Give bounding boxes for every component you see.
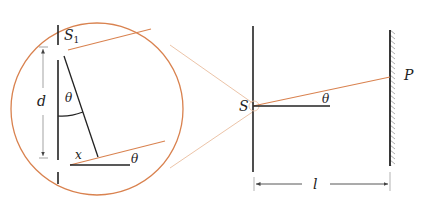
label-p: P <box>403 67 414 83</box>
label-l: l <box>313 176 317 192</box>
label-theta-inset-bottom: θ <box>131 152 139 166</box>
double-slit-diagram: S1 d θ x θ S θ P l <box>0 0 428 205</box>
label-theta-main: θ <box>322 92 330 106</box>
label-s: S <box>239 98 249 114</box>
label-theta-inset-top: θ <box>65 91 73 105</box>
label-x: x <box>75 148 82 162</box>
main-setup: S θ P l <box>239 26 414 192</box>
label-d: d <box>37 93 46 109</box>
magnified-inset: S1 d θ x θ <box>11 23 183 195</box>
inset-circle <box>11 23 183 195</box>
